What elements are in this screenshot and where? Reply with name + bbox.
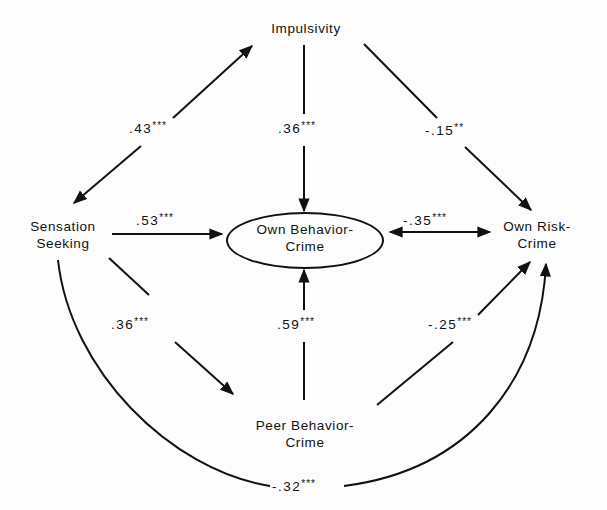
coef-value: -.15: [425, 123, 454, 138]
significance-stars: **: [454, 122, 464, 133]
coef-peer-ownrisk: -.25***: [428, 316, 472, 332]
edge-peer-ownrisk-upper: [478, 262, 530, 315]
coef-value: .36: [278, 121, 301, 136]
edge-impulsivity-sensation-lower: [74, 146, 141, 203]
edge-impulsivity-sensation-upper: [173, 46, 252, 118]
edge-sensation-peer-upper: [109, 258, 149, 295]
edge-sensation-peer-lower: [175, 342, 233, 394]
node-impulsivity: Impulsivity: [256, 20, 356, 37]
edge-sensation-ownrisk-curve-right: [344, 264, 546, 486]
edge-peer-ownrisk-lower: [377, 342, 453, 405]
coef-ownbehavior-ownrisk: -.35***: [403, 212, 447, 228]
coef-value: -.35: [403, 213, 432, 228]
coef-value: .59: [277, 317, 300, 332]
coef-value: -.32: [272, 479, 301, 494]
edge-impulsivity-ownrisk-upper: [364, 44, 437, 118]
coef-sensation-ownrisk: -.32***: [272, 478, 316, 494]
significance-stars: ***: [457, 316, 472, 327]
node-peer-behavior-crime: Peer Behavior- Crime: [240, 417, 370, 451]
edge-sensation-ownrisk-curve-left: [58, 260, 270, 486]
node-own-risk-crime: Own Risk- Crime: [492, 218, 582, 252]
coef-sensation-ownbehavior: .53***: [136, 212, 174, 228]
coef-impulsivity-sensation: .43***: [129, 120, 167, 136]
node-own-behavior-crime-line2: Crime: [230, 238, 380, 255]
node-sensation-seeking: Sensation Seeking: [18, 218, 108, 252]
node-sensation-seeking-line1: Sensation: [18, 218, 108, 235]
coef-value: .43: [129, 121, 152, 136]
coef-impulsivity-ownbehavior: .36***: [278, 120, 316, 136]
coef-impulsivity-ownrisk: -.15**: [425, 122, 464, 138]
node-peer-behavior-crime-line2: Crime: [240, 434, 370, 451]
coef-value: .53: [136, 213, 159, 228]
node-impulsivity-label: Impulsivity: [271, 21, 341, 36]
node-sensation-seeking-line2: Seeking: [18, 235, 108, 252]
significance-stars: ***: [301, 120, 316, 131]
significance-stars: ***: [432, 212, 447, 223]
significance-stars: ***: [152, 120, 167, 131]
coef-value: -.25: [428, 317, 457, 332]
coef-sensation-peer: .36***: [111, 316, 149, 332]
coef-peer-ownbehavior: .59***: [277, 316, 315, 332]
node-own-behavior-crime-line1: Own Behavior-: [230, 221, 380, 238]
node-own-behavior-crime: Own Behavior- Crime: [230, 221, 380, 255]
significance-stars: ***: [159, 212, 174, 223]
node-own-risk-crime-line2: Crime: [492, 235, 582, 252]
node-peer-behavior-crime-line1: Peer Behavior-: [240, 417, 370, 434]
edge-impulsivity-ownrisk-lower: [465, 147, 531, 210]
significance-stars: ***: [300, 316, 315, 327]
significance-stars: ***: [301, 478, 316, 489]
node-own-risk-crime-line1: Own Risk-: [492, 218, 582, 235]
coef-value: .36: [111, 317, 134, 332]
significance-stars: ***: [134, 316, 149, 327]
